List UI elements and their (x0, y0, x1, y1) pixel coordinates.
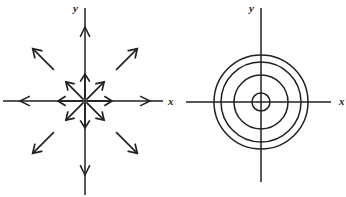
right-panel-concentric-orbits: x y (186, 2, 345, 182)
right-panel-x-axis-label: x (338, 95, 345, 107)
outer-vector-shaft-135 (33, 49, 54, 70)
inner-vector-shaft-225 (66, 102, 84, 120)
outer-vector-shaft-225 (33, 132, 54, 153)
two-panel-phase-portrait-figure: x y x y (0, 0, 346, 197)
outer-vector-shaft-315 (116, 132, 137, 153)
figure-root: x y x y (0, 0, 346, 197)
outer-vector-shaft-45 (116, 49, 137, 70)
left-panel-y-axis-label: y (71, 2, 78, 14)
left-panel-x-axis-label: x (167, 95, 174, 107)
inner-vector-shaft-45 (86, 82, 104, 100)
inner-vector-shaft-135 (66, 82, 84, 100)
right-panel-axes (186, 8, 331, 182)
inner-vector-shaft-315 (86, 102, 104, 120)
right-panel-y-axis-label: y (247, 2, 254, 14)
left-panel-radial-field: x y (3, 2, 174, 195)
